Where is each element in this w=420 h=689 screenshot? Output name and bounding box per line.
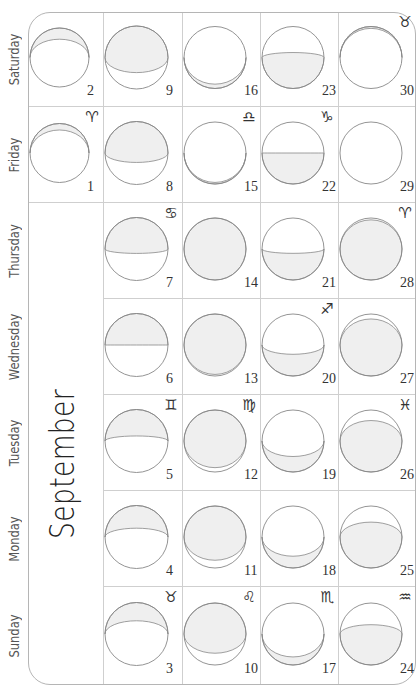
day-cell[interactable]: 10♌ xyxy=(182,587,260,685)
day-number: 27 xyxy=(400,371,414,387)
day-number: 10 xyxy=(244,661,258,677)
month-title: September xyxy=(42,389,82,539)
day-cell[interactable]: 19 xyxy=(260,395,338,491)
day-name-tuesday: Tuesday xyxy=(2,404,26,483)
day-cell[interactable]: 18 xyxy=(260,491,338,587)
day-number: 7 xyxy=(166,275,173,291)
day-number: 14 xyxy=(244,275,258,291)
day-number: 8 xyxy=(166,179,173,195)
day-cell[interactable]: 21 xyxy=(260,203,338,299)
day-cell[interactable]: 4 xyxy=(103,491,182,587)
day-cell[interactable]: 6 xyxy=(103,299,182,395)
day-cell[interactable]: 11 xyxy=(182,491,260,587)
gemini-icon: ♊ xyxy=(164,397,177,415)
day-number: 4 xyxy=(166,563,173,579)
day-number: 1 xyxy=(87,179,94,195)
day-cell[interactable]: 26♓ xyxy=(338,395,416,491)
day-number: 11 xyxy=(244,563,257,579)
day-number: 16 xyxy=(244,83,258,99)
day-number: 23 xyxy=(322,83,336,99)
day-number: 28 xyxy=(400,275,414,291)
taurus-icon: ♉ xyxy=(164,589,177,607)
capricorn-icon: ♑ xyxy=(320,109,333,127)
day-number: 5 xyxy=(166,467,173,483)
day-cell[interactable]: 25 xyxy=(338,491,416,587)
day-cell[interactable]: 24♒ xyxy=(338,587,416,685)
day-cell[interactable]: 28♈ xyxy=(338,203,416,299)
day-cell[interactable]: 17♏ xyxy=(260,587,338,685)
day-number: 20 xyxy=(322,371,336,387)
day-cell[interactable]: 12♍ xyxy=(182,395,260,491)
calendar-page: SundayMondayTuesdayWednesdayThursdayFrid… xyxy=(0,0,420,689)
day-number: 29 xyxy=(400,179,414,195)
day-number: 9 xyxy=(166,83,173,99)
aquarius-icon: ♒ xyxy=(398,589,411,607)
day-cell[interactable]: 23 xyxy=(260,12,338,107)
day-cell[interactable]: 14 xyxy=(182,203,260,299)
day-number: 17 xyxy=(322,661,336,677)
day-number: 22 xyxy=(322,179,336,195)
day-name-friday: Friday xyxy=(2,116,26,195)
day-name-saturday: Saturday xyxy=(2,21,26,99)
day-name-wednesday: Wednesday xyxy=(2,308,26,387)
day-number: 25 xyxy=(400,563,414,579)
libra-icon: ♎ xyxy=(242,109,255,127)
day-name-sunday: Sunday xyxy=(2,596,26,676)
day-number: 26 xyxy=(400,467,414,483)
day-name-thursday: Thursday xyxy=(2,212,26,291)
day-cell[interactable]: 7♋ xyxy=(103,203,182,299)
day-cell[interactable]: 13 xyxy=(182,299,260,395)
sagittarius-icon: ♐ xyxy=(320,301,333,319)
day-number: 13 xyxy=(244,371,258,387)
day-number: 19 xyxy=(322,467,336,483)
day-number: 15 xyxy=(244,179,258,195)
aries-icon: ♈ xyxy=(398,205,411,223)
day-cell[interactable]: 20♐ xyxy=(260,299,338,395)
day-number: 2 xyxy=(87,83,94,99)
day-name-monday: Monday xyxy=(2,500,26,579)
day-cell[interactable]: 1♈ xyxy=(28,107,103,203)
leo-icon: ♌ xyxy=(242,589,255,607)
day-number: 21 xyxy=(322,275,336,291)
day-cell[interactable]: 3♉ xyxy=(103,587,182,685)
day-cell[interactable]: 22♑ xyxy=(260,107,338,203)
day-cell[interactable]: 8 xyxy=(103,107,182,203)
pisces-icon: ♓ xyxy=(398,397,411,415)
day-cell[interactable]: 30♉ xyxy=(338,12,416,107)
day-number: 24 xyxy=(400,661,414,677)
day-cell[interactable]: 5♊ xyxy=(103,395,182,491)
day-number: 18 xyxy=(322,563,336,579)
day-number: 12 xyxy=(244,467,258,483)
day-number: 30 xyxy=(400,83,414,99)
aries-icon: ♈ xyxy=(85,109,98,127)
scorpio-icon: ♏ xyxy=(320,589,333,607)
day-number: 6 xyxy=(166,371,173,387)
day-number: 3 xyxy=(166,661,173,677)
day-cell[interactable]: 15♎ xyxy=(182,107,260,203)
day-cell[interactable]: 9 xyxy=(103,12,182,107)
day-cell[interactable]: 16 xyxy=(182,12,260,107)
taurus-icon: ♉ xyxy=(398,14,411,32)
day-cell[interactable]: 2 xyxy=(28,12,103,107)
day-cell[interactable]: 29 xyxy=(338,107,416,203)
cancer-icon: ♋ xyxy=(164,205,177,223)
day-cell[interactable]: 27 xyxy=(338,299,416,395)
virgo-icon: ♍ xyxy=(242,397,255,415)
